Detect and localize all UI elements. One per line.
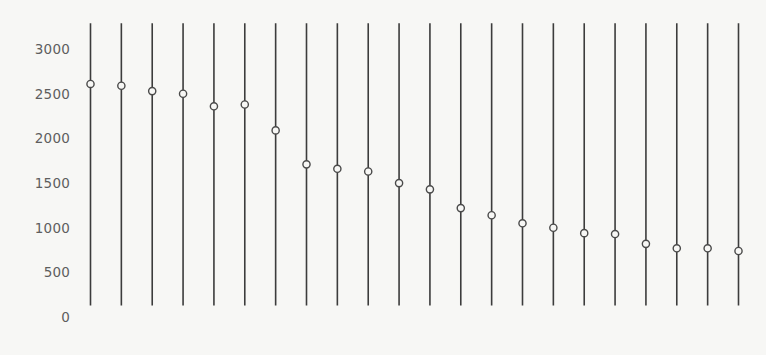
- data-point-marker: [210, 103, 217, 110]
- data-point-marker: [457, 205, 464, 212]
- data-point-marker: [334, 165, 341, 172]
- data-point-marker: [581, 230, 588, 237]
- data-point-marker: [118, 82, 125, 89]
- data-point-marker: [365, 168, 372, 175]
- scatter-stem-plot: [0, 0, 766, 355]
- data-point-marker: [642, 240, 649, 247]
- data-point-marker: [426, 186, 433, 193]
- data-point-marker: [673, 245, 680, 252]
- chart-figure: 050010001500200025003000: [0, 0, 766, 355]
- data-point-marker: [87, 80, 94, 87]
- data-point-marker: [519, 220, 526, 227]
- data-point-markers-group: [87, 80, 742, 254]
- data-point-marker: [488, 212, 495, 219]
- data-point-marker: [303, 161, 310, 168]
- stem-lines-group: [91, 23, 739, 305]
- data-point-marker: [704, 245, 711, 252]
- data-point-marker: [149, 87, 156, 94]
- data-point-marker: [550, 224, 557, 231]
- data-point-marker: [611, 230, 618, 237]
- data-point-marker: [735, 247, 742, 254]
- data-point-marker: [241, 101, 248, 108]
- data-point-marker: [395, 180, 402, 187]
- data-point-marker: [272, 127, 279, 134]
- data-point-marker: [179, 90, 186, 97]
